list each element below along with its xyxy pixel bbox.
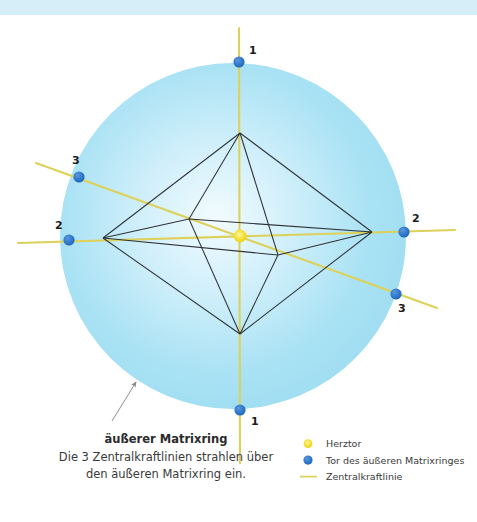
gate-node-label-1-1: 1	[251, 415, 259, 428]
annotation-line-2: den äußeren Matrixring ein.	[86, 467, 246, 481]
annotation-line-1: Die 3 Zentralkraftlinien strahlen über	[59, 450, 274, 464]
gate-node-2-2[interactable]	[63, 234, 74, 245]
gate-node-label-2-2: 2	[55, 219, 63, 232]
gate-node-2-3[interactable]	[398, 226, 409, 237]
gate-node-label-2-3: 2	[412, 212, 420, 225]
legend: HerztorTor des äußeren MatrixringesZentr…	[300, 438, 464, 482]
zentralkraftlinie-vertikal	[239, 28, 240, 463]
gate-node-1-1[interactable]	[234, 404, 245, 415]
diagram-stage: 112233 äußerer Matrixring Die 3 Zentralk…	[0, 0, 477, 522]
legend-marker-herztor	[304, 439, 313, 448]
matrixring-diagram: 112233 äußerer Matrixring Die 3 Zentralk…	[0, 0, 477, 522]
legend-label-0: Herztor	[326, 438, 361, 449]
legend-label-1: Tor des äußeren Matrixringes	[325, 455, 464, 466]
gate-node-3-5[interactable]	[390, 288, 401, 299]
annotation-arrow	[112, 382, 136, 421]
legend-label-2: Zentralkraftlinie	[326, 471, 403, 482]
herztor-node[interactable]	[234, 230, 247, 243]
legend-marker-matrixring-tor	[303, 456, 312, 465]
gate-node-1-0[interactable]	[233, 56, 244, 67]
top-banner	[0, 0, 477, 15]
annotation-title: äußerer Matrixring	[105, 432, 228, 446]
gate-node-label-1-0: 1	[249, 44, 257, 57]
gate-node-label-3-4: 3	[72, 154, 80, 167]
gate-node-3-4[interactable]	[73, 171, 84, 182]
gate-node-label-3-5: 3	[398, 302, 406, 315]
